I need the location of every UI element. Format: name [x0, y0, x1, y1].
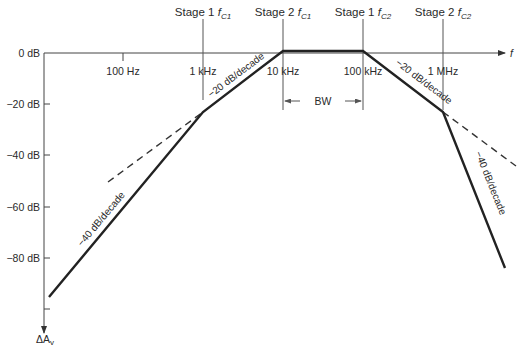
y-label-80: −80 dB [6, 252, 40, 264]
dashed-extensions [108, 112, 516, 182]
header-stage1-fc1: Stage 1 fC1 [175, 6, 231, 21]
x-label-100hz: 100 Hz [106, 65, 139, 77]
y-label-20: −20 dB [6, 98, 40, 110]
y-tick-labels: 0 dB −20 dB −40 dB −60 dB −80 dB [6, 47, 40, 264]
y-axis [44, 53, 50, 333]
y-label-60: −60 dB [6, 201, 40, 213]
header-stage1-fc2: Stage 1 fC2 [335, 6, 392, 21]
corner-frequency-headers: Stage 1 fC1 Stage 2 fC1 Stage 1 fC2 Stag… [175, 6, 472, 21]
y-label-40: −40 dB [6, 149, 40, 161]
x-label-10khz: 10 kHz [267, 65, 300, 77]
bode-plot: 0 dB −20 dB −40 dB −60 dB −80 dB ΔAv f 1… [0, 0, 517, 347]
x-label-1khz: 1 kHz [190, 65, 217, 77]
header-stage2-fc2: Stage 2 fC2 [415, 6, 472, 21]
x-axis-title: f [510, 47, 514, 59]
bw-label: BW [315, 95, 332, 107]
y-axis-title: ΔAv [36, 333, 54, 347]
bandwidth-indicator: BW [285, 95, 361, 107]
x-label-1mhz: 1 MHz [428, 65, 458, 77]
slope-label-high-40: −40 dB/decade [473, 150, 509, 217]
header-stage2-fc1: Stage 2 fC1 [255, 6, 311, 21]
x-label-100khz: 100 kHz [344, 65, 383, 77]
y-label-0: 0 dB [18, 47, 40, 59]
slope-label-low-40: −40 dB/decade [75, 189, 127, 248]
